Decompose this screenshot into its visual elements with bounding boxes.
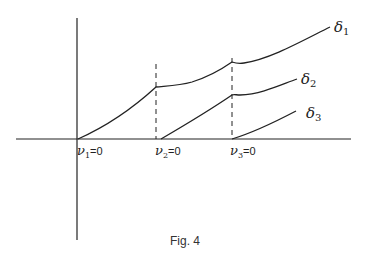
curve-delta-2 [161, 79, 297, 139]
label-nu-1: ν1=0 [77, 143, 103, 160]
curve-delta-1 [78, 27, 330, 139]
curve-delta-3 [232, 111, 296, 139]
label-nu-3: ν3=0 [230, 143, 256, 160]
figure-caption: Fig. 4 [170, 234, 200, 248]
figure-diagram: δ1 δ2 δ3 ν1=0 ν2=0 ν3=0 Fig. 4 [0, 0, 366, 262]
label-delta-2: δ2 [301, 70, 316, 89]
label-delta-1: δ1 [334, 18, 349, 37]
label-delta-3: δ3 [306, 104, 321, 123]
label-nu-2: ν2=0 [155, 143, 181, 160]
